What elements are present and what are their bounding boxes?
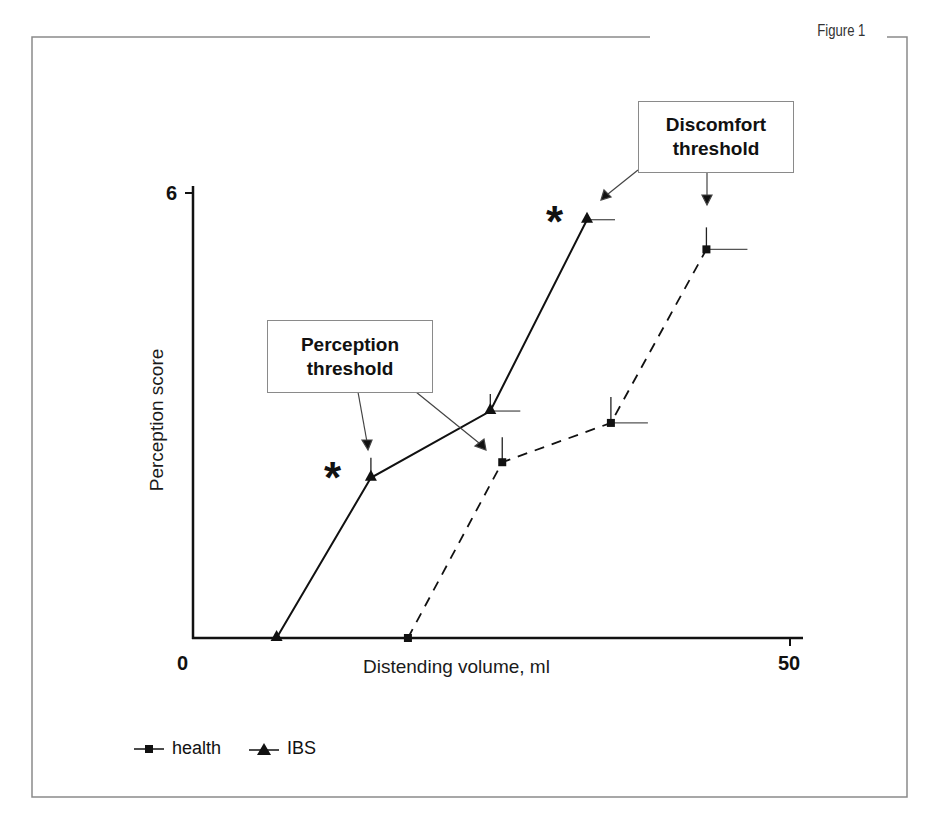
series-layer	[271, 212, 748, 642]
x-axis-title: Distending volume, ml	[363, 656, 550, 678]
significance-star: *	[324, 456, 341, 500]
triangle-marker-icon	[249, 742, 279, 756]
significance-star: *	[546, 200, 563, 244]
callout-text: Perception	[268, 333, 432, 357]
legend-item-health: health	[134, 738, 221, 759]
arrow-head-icon	[702, 195, 712, 205]
square-marker-icon	[498, 458, 506, 466]
figure-label: Figure 1	[814, 22, 869, 40]
square-marker-icon	[607, 419, 615, 427]
square-marker-icon	[404, 634, 412, 642]
series-health	[404, 227, 747, 642]
legend: health IBS	[134, 738, 316, 759]
series-ibs	[271, 212, 615, 641]
arrow-head-icon	[362, 440, 372, 450]
arrow-head-icon	[601, 190, 611, 200]
x-tick-label-50: 50	[778, 652, 800, 675]
axes	[185, 186, 803, 646]
x-tick-label-0: 0	[177, 652, 188, 675]
square-marker-icon	[134, 743, 164, 755]
legend-label: health	[172, 738, 221, 759]
callout-text: threshold	[268, 357, 432, 381]
callout-arrows	[358, 170, 712, 450]
square-marker-icon	[702, 245, 710, 253]
legend-label: IBS	[287, 738, 316, 759]
legend-item-ibs: IBS	[249, 738, 316, 759]
callout-text: Discomfort	[639, 113, 793, 137]
y-tick-label-6: 6	[166, 182, 177, 205]
callout-text: threshold	[639, 137, 793, 161]
callout-perception-threshold: Perception threshold	[267, 320, 433, 393]
callout-discomfort-threshold: Discomfort threshold	[638, 101, 794, 173]
y-axis-title: Perception score	[146, 335, 168, 505]
triangle-marker-icon	[581, 212, 593, 223]
